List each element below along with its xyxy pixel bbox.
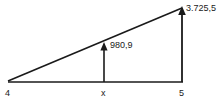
axis-tick-label-x: x — [101, 88, 106, 98]
apex-value-label: 3.725,5 — [186, 3, 216, 13]
figure-canvas: 3.725,5 980,9 4 x 5 — [0, 0, 222, 103]
axis-tick-label-right: 5 — [179, 88, 184, 98]
triangle-diagram — [0, 0, 222, 103]
mid-value-label: 980,9 — [110, 40, 133, 50]
hypotenuse-line — [8, 8, 182, 81]
axis-tick-label-left: 4 — [5, 88, 10, 98]
right-ordinate-arrow-icon — [178, 6, 186, 15]
mid-ordinate-arrow-icon — [100, 42, 107, 51]
